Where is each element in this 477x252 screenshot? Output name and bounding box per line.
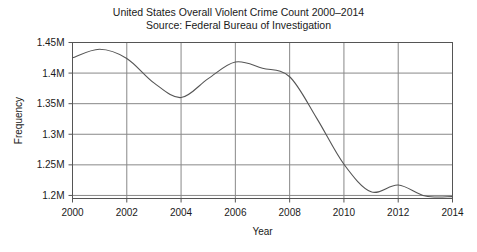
data-series-line bbox=[73, 49, 453, 197]
x-tick-label: 2002 bbox=[116, 207, 139, 218]
y-tick-label: 1.35M bbox=[37, 98, 65, 109]
x-axis-tick-labels: 20002002200420062008201020122014 bbox=[61, 207, 464, 218]
x-tick-label: 2008 bbox=[279, 207, 302, 218]
y-tick-label: 1.25M bbox=[37, 159, 65, 170]
y-gridlines bbox=[73, 73, 453, 195]
chart-page: United States Overall Violent Crime Coun… bbox=[0, 0, 477, 252]
y-axis-title: Frequency bbox=[13, 97, 24, 144]
x-tick-label: 2006 bbox=[224, 207, 247, 218]
x-gridlines bbox=[127, 43, 398, 199]
y-tick-marks bbox=[69, 43, 73, 196]
x-tick-label: 2004 bbox=[170, 207, 193, 218]
x-axis-title: Year bbox=[252, 226, 273, 237]
y-tick-label: 1.3M bbox=[42, 129, 64, 140]
plot-frame bbox=[73, 43, 453, 199]
x-tick-label: 2000 bbox=[61, 207, 84, 218]
y-tick-label: 1.45M bbox=[37, 37, 65, 48]
line-chart: 1.2M1.25M1.3M1.35M1.4M1.45M 200020022004… bbox=[0, 0, 477, 252]
y-tick-label: 1.2M bbox=[42, 190, 64, 201]
x-tick-label: 2012 bbox=[387, 207, 410, 218]
x-tick-label: 2014 bbox=[441, 207, 464, 218]
y-tick-label: 1.4M bbox=[42, 68, 64, 79]
x-tick-marks bbox=[73, 199, 453, 203]
y-axis-tick-labels: 1.2M1.25M1.3M1.35M1.4M1.45M bbox=[37, 37, 65, 201]
x-tick-label: 2010 bbox=[333, 207, 356, 218]
